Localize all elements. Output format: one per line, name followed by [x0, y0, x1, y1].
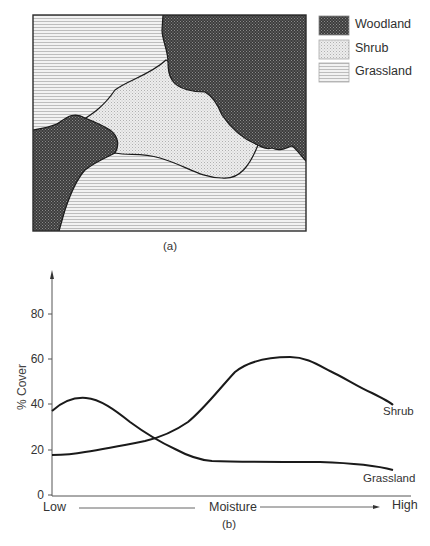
- legend-swatch-shrub: [319, 40, 349, 59]
- legend-swatch-grassland: [319, 63, 349, 82]
- ytick-0: 0: [20, 488, 44, 502]
- legend-label-woodland: Woodland: [355, 17, 411, 31]
- legend-swatch-woodland: [319, 16, 349, 35]
- caption-a: (a): [163, 240, 177, 252]
- caption-b: (b): [222, 518, 236, 530]
- y-axis-arrow-icon: [50, 270, 54, 279]
- figure-canvas: [0, 0, 430, 546]
- x-axis-low-label: Low: [43, 500, 66, 514]
- x-axis-high-label: High: [392, 498, 418, 512]
- cover-graph: [48, 270, 411, 509]
- x-axis-title: Moisture: [209, 500, 257, 514]
- legend-label-shrub: Shrub: [355, 41, 388, 55]
- curve-label-grassland: Grassland: [363, 472, 415, 484]
- shrub-curve: [52, 357, 393, 455]
- curve-label-shrub: Shrub: [383, 405, 414, 417]
- y-axis-label: % Cover: [15, 357, 29, 417]
- map-legend: [319, 16, 349, 82]
- vegetation-map: [30, 15, 310, 235]
- ytick-20: 20: [20, 443, 44, 457]
- moisture-arrow-icon: [373, 505, 380, 509]
- grassland-curve: [52, 398, 393, 470]
- ytick-80: 80: [20, 307, 44, 321]
- legend-label-grassland: Grassland: [355, 64, 412, 78]
